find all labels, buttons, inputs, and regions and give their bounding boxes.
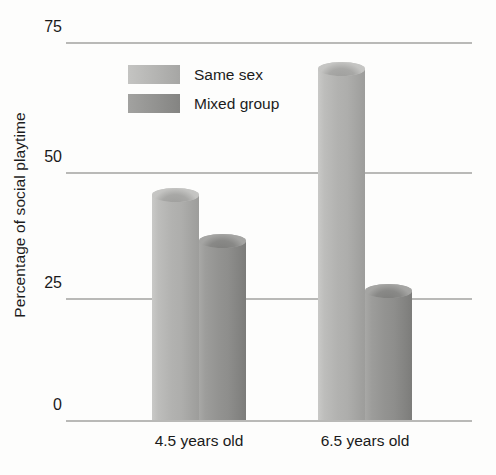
gridline-75 [66,42,472,44]
legend-label-mixed-group: Mixed group [194,95,279,113]
bar-cap-shading [318,62,365,76]
bar-body [365,291,412,420]
y-tick-label-75: 75 [22,18,62,36]
y-tick-label-0: 0 [22,396,62,414]
bar-body [318,69,365,420]
legend-swatch-same-sex [128,65,180,84]
y-tick-label-50: 50 [22,148,62,166]
bar-chart: Percentage of social playtime 75 50 25 0 [0,0,496,475]
x-tick-label-6-5-years-old: 6.5 years old [285,432,445,450]
legend-item-same-sex: Same sex [128,60,279,89]
legend-label-same-sex: Same sex [194,66,263,84]
bar-cap-shading [365,284,412,298]
bar-cap-shading [199,234,246,248]
bar-body [152,195,199,420]
bar-same-sex-6-5-years-old [318,62,365,420]
bar-same-sex-4-5-years-old [152,188,199,420]
bar-mixed-group-4-5-years-old [199,234,246,420]
x-tick-label-4-5-years-old: 4.5 years old [119,432,279,450]
gridline-50 [66,172,472,174]
plot-area: 75 50 25 0 4.5 years o [0,0,496,475]
bar-cap-shading [152,188,199,202]
axis-baseline-0 [66,420,472,422]
chart-legend: Same sex Mixed group [128,60,279,118]
legend-swatch-mixed-group [128,94,180,113]
bar-body [199,241,246,420]
legend-item-mixed-group: Mixed group [128,89,279,118]
y-tick-label-25: 25 [22,274,62,292]
bar-mixed-group-6-5-years-old [365,284,412,420]
